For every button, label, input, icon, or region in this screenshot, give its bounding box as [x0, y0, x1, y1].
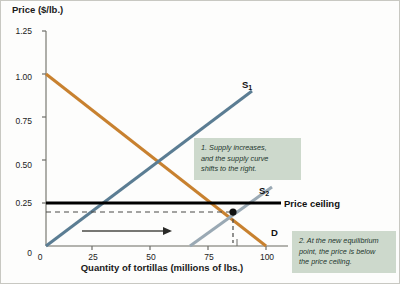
equilibrium-point-marker — [229, 208, 236, 215]
annotation-supply-shift-line-3: shifts to the right. — [201, 164, 295, 175]
supply-shift-arrow-head — [163, 227, 172, 235]
annotation-equilibrium-line-2: point, the price is below — [299, 247, 390, 258]
annotation-supply-shift-line-1: 1. Supply increases, — [201, 143, 295, 154]
annotation-equilibrium: 2. At the new equilibrium point, the pri… — [292, 231, 396, 273]
demand-curve-label: D — [271, 228, 278, 238]
supply-original-label-sub: 1 — [248, 84, 252, 91]
annotation-equilibrium-line-3: the price ceiling. — [299, 257, 390, 268]
annotation-equilibrium-line-1: 2. At the new equilibrium — [299, 236, 390, 247]
annotation-supply-shift: 1. Supply increases, and the supply curv… — [194, 138, 301, 180]
supply-new-label-sub: 2 — [265, 190, 269, 197]
annotation-supply-shift-line-2: and the supply curve — [201, 154, 295, 165]
price-ceiling-label: Price ceiling — [284, 198, 340, 209]
chart-figure: Price ($/lb.) Quantity of tortillas (mil… — [0, 0, 400, 284]
supply-curve-original-label: S1 — [242, 80, 252, 91]
supply-curve-new-label: S2 — [259, 186, 269, 197]
